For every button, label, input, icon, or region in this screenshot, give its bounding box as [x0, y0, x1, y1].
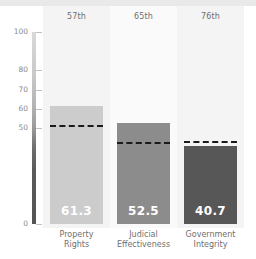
y-tick-mark	[36, 224, 42, 225]
bar[interactable]: 52.5	[117, 123, 170, 224]
category-label: PropertyRights	[43, 230, 110, 250]
y-tick-mark	[36, 32, 42, 33]
category-label: GovernmentIntegrity	[177, 230, 244, 250]
percentile-label: 76th	[177, 11, 244, 23]
reference-line	[184, 141, 237, 143]
bar-value-label: 40.7	[184, 204, 237, 218]
plot-area: 57th65th76th 100807060500 61.352.540.7 P…	[0, 0, 256, 259]
y-tick-mark	[36, 90, 42, 91]
bar-value-label: 52.5	[117, 204, 170, 218]
category-label-line: Judicial	[110, 230, 177, 240]
bar[interactable]: 40.7	[184, 146, 237, 224]
bar-value-label: 61.3	[50, 204, 103, 218]
y-tick-label: 60	[0, 105, 28, 113]
y-tick-label: 50	[0, 124, 28, 132]
bar[interactable]: 61.3	[50, 106, 103, 224]
category-label-line: Rights	[43, 240, 110, 250]
category-label-line: Effectiveness	[110, 240, 177, 250]
y-tick-mark	[36, 109, 42, 110]
category-label-line: Government	[177, 230, 244, 240]
y-tick-label: 70	[0, 86, 28, 94]
reference-line	[117, 142, 170, 144]
y-tick-label: 0	[0, 220, 28, 228]
y-tick-mark	[36, 128, 42, 129]
y-tick-label: 80	[0, 66, 28, 74]
category-label: JudicialEffectiveness	[110, 230, 177, 250]
percentile-label: 57th	[43, 11, 110, 23]
chart-container: 57th65th76th 100807060500 61.352.540.7 P…	[0, 0, 256, 259]
y-tick-label: 100	[0, 28, 28, 36]
percentile-label: 65th	[110, 11, 177, 23]
y-tick-mark	[36, 70, 42, 71]
reference-line	[50, 125, 103, 127]
category-label-line: Property	[43, 230, 110, 240]
category-label-line: Integrity	[177, 240, 244, 250]
